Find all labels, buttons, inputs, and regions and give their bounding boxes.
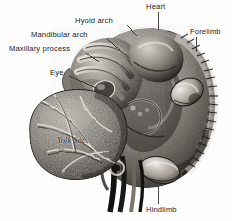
label-mandibular-arch: Mandibular arch [31,30,88,39]
heart-structure [126,30,188,86]
label-forelimb: Forelimb [190,27,221,36]
label-eye: Eye [50,68,64,77]
label-heart: Heart [146,2,165,11]
label-maxillary-process: Maxillary process [9,44,70,53]
embryo-figure: Heart Forelimb Hyoid arch Mandibular arc… [0,0,232,221]
label-hindlimb: Hindlimb [146,205,177,214]
label-hyoid-arch: Hyoid arch [75,16,113,25]
